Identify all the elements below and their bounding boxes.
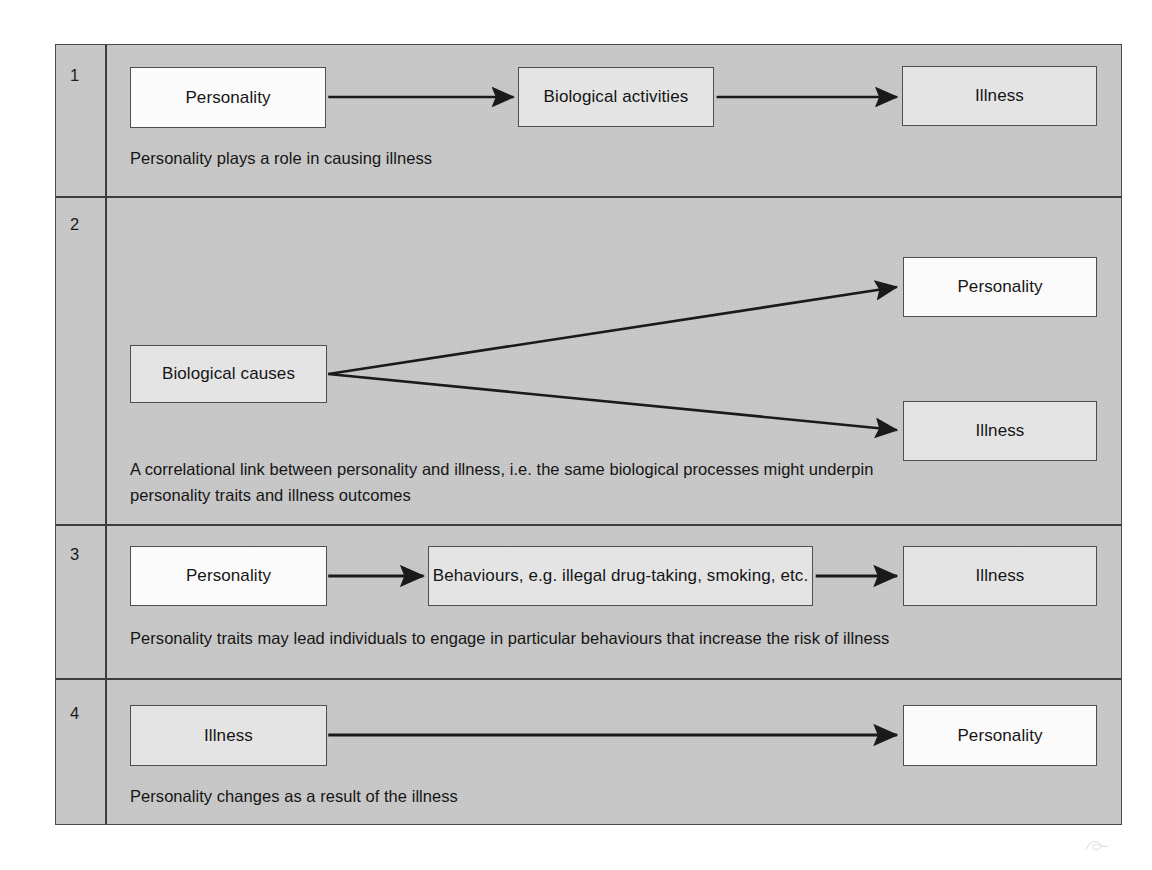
row-1-caption: Personality plays a role in causing illn… [130,145,432,171]
node-label: Illness [194,726,263,746]
node-label: Behaviours, e.g. illegal drug-taking, sm… [423,566,819,586]
row-number-column-divider [105,45,107,824]
node-behaviours[interactable]: Behaviours, e.g. illegal drug-taking, sm… [428,546,813,606]
row-number-3: 3 [70,546,79,563]
row-divider-1 [56,196,1121,198]
node-personality[interactable]: Personality [903,705,1097,766]
node-personality[interactable]: Personality [130,67,326,128]
node-label: Biological activities [534,87,699,107]
node-illness[interactable]: Illness [130,705,327,766]
row-2-caption-line-1: A correlational link between personality… [130,456,873,482]
scan-artifact [1084,838,1110,854]
model-row-1: 1 Personality Biological activities Illn… [56,45,1121,196]
arrow-biological-causes-to-illness [328,374,897,430]
model-row-4: 4 Illness Personality Personality change… [56,679,1121,824]
model-row-3: 3 Personality Behaviours, e.g. illegal d… [56,525,1121,678]
row-number-2: 2 [70,216,79,233]
model-row-2: 2 Biological causes Personality Illness [56,197,1121,524]
node-personality[interactable]: Personality [903,257,1097,317]
node-illness[interactable]: Illness [903,401,1097,461]
diagram-frame: 1 Personality Biological activities Illn… [55,44,1122,825]
row-number-4: 4 [70,705,79,722]
figure-page: 1 Personality Biological activities Illn… [0,0,1152,870]
node-personality[interactable]: Personality [130,546,327,606]
row-number-1: 1 [70,67,79,84]
node-label: Personality [947,277,1052,297]
arrow-biological-causes-to-personality [328,287,897,374]
row-2-caption-line-2: personality traits and illness outcomes [130,482,411,508]
node-label: Illness [966,421,1035,441]
row-divider-3 [56,678,1121,680]
node-illness[interactable]: Illness [902,66,1097,126]
node-label: Personality [176,566,281,586]
node-label: Illness [966,566,1035,586]
row-3-caption: Personality traits may lead individuals … [130,625,889,651]
row-divider-2 [56,524,1121,526]
node-label: Biological causes [152,364,305,384]
row-4-caption: Personality changes as a result of the i… [130,783,458,809]
node-label: Personality [175,88,280,108]
node-illness[interactable]: Illness [903,546,1097,606]
node-biological-activities[interactable]: Biological activities [518,67,714,127]
node-label: Illness [965,86,1034,106]
node-label: Personality [947,726,1052,746]
node-biological-causes[interactable]: Biological causes [130,345,327,403]
